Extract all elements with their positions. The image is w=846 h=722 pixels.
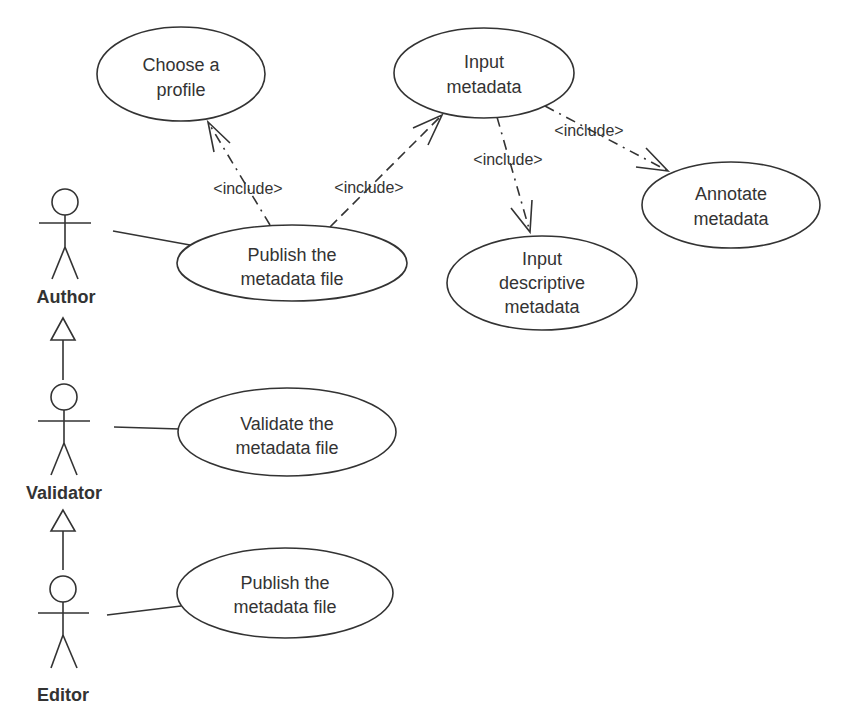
association-author (113, 231, 190, 245)
svg-text:Input: Input (522, 249, 562, 269)
use-case-annotate-metadata[interactable]: Annotate metadata (642, 162, 820, 248)
actor-label: Editor (37, 685, 89, 705)
generalization-validator-author (51, 318, 75, 380)
include-label: <include> (213, 180, 282, 197)
stick-figure-icon (38, 384, 90, 475)
svg-text:metadata: metadata (446, 77, 522, 97)
svg-text:descriptive: descriptive (499, 273, 585, 293)
association-editor (107, 606, 181, 615)
use-case-publish-editor[interactable]: Publish the metadata file (177, 548, 393, 638)
include-relation-choose-profile: <include> (208, 122, 283, 225)
generalization-editor-validator (51, 510, 75, 570)
svg-text:Validate the: Validate the (240, 414, 334, 434)
association-validator (114, 427, 180, 429)
use-case-input-descriptive[interactable]: Input descriptive metadata (447, 236, 637, 330)
svg-text:Choose a: Choose a (142, 55, 220, 75)
svg-text:metadata: metadata (693, 209, 769, 229)
use-case-input-metadata[interactable]: Input metadata (394, 28, 574, 118)
actor-author[interactable]: Author (37, 189, 96, 307)
include-relation-input-metadata: <include> (330, 115, 442, 227)
use-case-publish-author[interactable]: Publish the metadata file (177, 225, 407, 301)
stick-figure-icon (38, 576, 89, 668)
stick-figure-icon (39, 189, 91, 279)
include-label: <include> (473, 151, 542, 168)
svg-text:metadata file: metadata file (240, 269, 343, 289)
svg-text:Input: Input (464, 52, 504, 72)
actor-label: Author (37, 287, 96, 307)
svg-text:metadata file: metadata file (235, 438, 338, 458)
include-relation-annotate-metadata: <include> (545, 106, 668, 171)
svg-text:profile: profile (156, 80, 205, 100)
use-case-diagram: <include> <include> <include> <include> … (0, 0, 846, 722)
actor-validator[interactable]: Validator (26, 384, 102, 503)
svg-text:Publish the: Publish the (240, 573, 329, 593)
actor-editor[interactable]: Editor (37, 576, 89, 705)
include-label: <include> (554, 122, 623, 139)
actor-label: Validator (26, 483, 102, 503)
svg-text:Annotate: Annotate (695, 184, 767, 204)
svg-text:metadata file: metadata file (233, 597, 336, 617)
include-label: <include> (334, 179, 403, 196)
svg-text:Publish the: Publish the (247, 245, 336, 265)
include-relation-input-descriptive: <include> (473, 117, 542, 232)
svg-text:metadata: metadata (504, 297, 580, 317)
use-case-choose-profile[interactable]: Choose a profile (97, 27, 265, 121)
use-case-validate[interactable]: Validate the metadata file (178, 388, 396, 476)
